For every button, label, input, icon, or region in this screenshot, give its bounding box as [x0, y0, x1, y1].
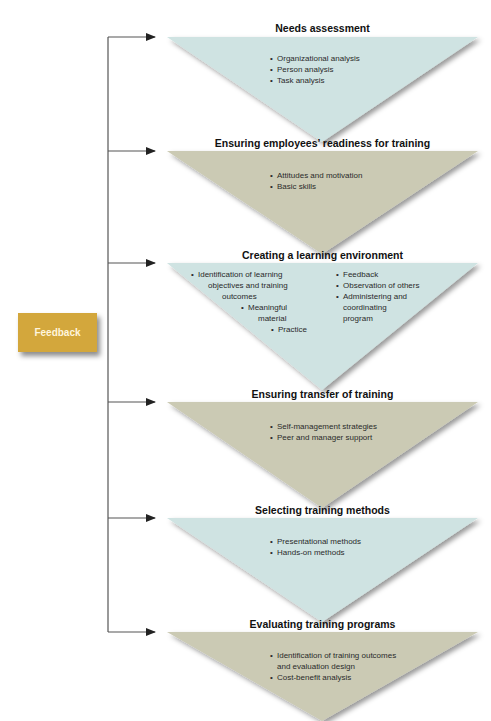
step-title-needs-assessment: Needs assessment — [167, 22, 478, 34]
feedback-box: Feedback — [18, 313, 97, 352]
bullet-item: Task analysis — [270, 75, 360, 86]
bullet-item: Basic skills — [270, 181, 362, 192]
triangle-methods — [167, 518, 478, 622]
step-title-methods: Selecting training methods — [167, 504, 478, 516]
bullets-needs-assessment: Organizational analysis Person analysis … — [270, 53, 360, 86]
bullet-item: Self-management strategies — [270, 421, 377, 432]
bullet-item: Identification of learning objectives an… — [191, 269, 331, 302]
bullet-item: Cost-benefit analysis — [270, 672, 396, 683]
bullet-item: Feedback — [336, 269, 419, 280]
triangle-transfer — [167, 402, 478, 508]
bullet-item: Person analysis — [270, 64, 360, 75]
bullet-item: Peer and manager support — [270, 432, 377, 443]
bullet-item: Meaningful material — [241, 302, 331, 324]
bullets-learning-environment-left: Identification of learning objectives an… — [191, 269, 331, 335]
step-title-learning-environment: Creating a learning environment — [167, 249, 478, 261]
bullet-item: Identification of training outcomes and … — [270, 650, 396, 672]
connector-and-triangles — [0, 0, 491, 721]
feedback-label: Feedback — [34, 327, 80, 338]
bullet-item: Practice — [271, 324, 331, 335]
bullets-readiness: Attitudes and motivation Basic skills — [270, 170, 362, 192]
step-title-transfer: Ensuring transfer of training — [167, 388, 478, 400]
triangle-readiness — [167, 151, 478, 254]
bullets-learning-environment-right: Feedback Observation of others Administe… — [336, 269, 419, 324]
bullet-item: Observation of others — [336, 280, 419, 291]
bullet-item: Attitudes and motivation — [270, 170, 362, 181]
bullet-item: Presentational methods — [270, 536, 361, 547]
bullets-transfer: Self-management strategies Peer and mana… — [270, 421, 377, 443]
bullets-evaluation: Identification of training outcomes and … — [270, 650, 396, 683]
bullets-methods: Presentational methods Hands-on methods — [270, 536, 361, 558]
step-title-evaluation: Evaluating training programs — [167, 618, 478, 630]
bullet-item: Organizational analysis — [270, 53, 360, 64]
step-title-readiness: Ensuring employees’ readiness for traini… — [167, 137, 478, 149]
bullet-item: Administering and coordinating program — [336, 291, 419, 324]
training-process-diagram: Feedback Needs assessment Organizational… — [0, 0, 491, 721]
bullet-item: Hands-on methods — [270, 547, 361, 558]
